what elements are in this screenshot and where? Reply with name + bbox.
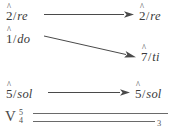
horizontal-arrow-sol	[48, 89, 130, 95]
caret-icon: ^	[7, 2, 11, 12]
diagonal-arrow-do-ti	[44, 36, 136, 58]
scale-degree-2: ^2	[6, 9, 13, 22]
figured-bass-stack: 5 4	[19, 109, 23, 124]
horizontal-arrow-re	[44, 11, 134, 17]
label-target-re: ^2/re	[139, 9, 161, 23]
label-source-sol: ^5/sol	[6, 87, 33, 101]
caret-icon: ^	[142, 43, 146, 53]
caret-icon: ^	[140, 2, 144, 12]
solfege-syllable: do	[17, 32, 30, 46]
scale-degree-5: ^5	[6, 87, 13, 100]
resolution-figure-3: 3	[157, 118, 161, 128]
figured-bass-lower: 4	[19, 117, 23, 125]
scale-degree-2: ^2	[139, 9, 146, 22]
solfege-syllable: re	[17, 9, 27, 23]
label-source-re: ^2/re	[6, 9, 28, 23]
caret-icon: ^	[7, 25, 11, 35]
scale-degree-5: ^5	[135, 87, 142, 100]
label-source-do: ^1/do	[6, 32, 30, 46]
roman-numeral-v: V	[5, 109, 16, 124]
solfege-syllable: ti	[152, 50, 159, 64]
label-target-sol: ^5/sol	[135, 87, 162, 101]
caret-icon: ^	[7, 80, 11, 90]
solfege-syllable: sol	[17, 87, 32, 101]
voice-leading-figure: ^2/re ^2/re ^1/do ^7/ti ^5/sol ^5/sol V …	[0, 0, 179, 136]
hold-lines-chord	[33, 114, 168, 122]
scale-degree-1: ^1	[6, 32, 13, 45]
label-target-ti: ^7/ti	[141, 50, 160, 64]
solfege-syllable: sol	[146, 87, 161, 101]
caret-icon: ^	[136, 80, 140, 90]
scale-degree-7: ^7	[141, 50, 148, 63]
solfege-syllable: re	[150, 9, 160, 23]
